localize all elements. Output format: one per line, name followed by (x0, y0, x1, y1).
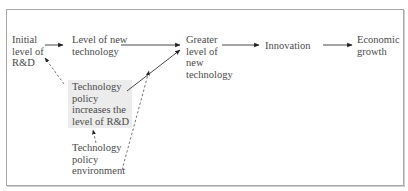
node-greater-technology: Greater level of new technology (186, 34, 233, 80)
node-text: Technology (72, 142, 125, 154)
node-text: level of (186, 46, 233, 58)
node-new-technology: Level of new technology (72, 34, 127, 57)
node-text: growth (357, 46, 400, 58)
node-initial-rd: Initial level of R&D (12, 34, 44, 69)
node-text: Initial (12, 34, 44, 46)
arrow-policy-to-greater (127, 50, 180, 91)
node-text: R&D (12, 57, 44, 69)
node-economic-growth: Economic growth (357, 34, 400, 57)
node-policy-environment: Technology policy environment (72, 142, 125, 177)
node-text: policy (72, 154, 125, 166)
node-text: Level of new (72, 34, 127, 46)
node-text: technology (72, 46, 127, 58)
dashed-arrow-policy-to-initial (45, 58, 64, 84)
node-text: Technology (72, 81, 129, 93)
node-text: policy (72, 93, 129, 105)
node-text: level of (12, 46, 44, 58)
node-text: environment (72, 165, 125, 177)
node-text: Economic (357, 34, 400, 46)
node-text: Greater (186, 34, 233, 46)
arrows-layer (0, 0, 408, 191)
node-text: Innovation (265, 40, 311, 52)
node-text: level of R&D (72, 116, 129, 128)
node-text: increases the (72, 104, 129, 116)
node-innovation: Innovation (265, 40, 311, 52)
node-text: technology (186, 69, 233, 81)
node-text: new (186, 57, 233, 69)
node-technology-policy: Technology policy increases the level of… (72, 81, 129, 127)
